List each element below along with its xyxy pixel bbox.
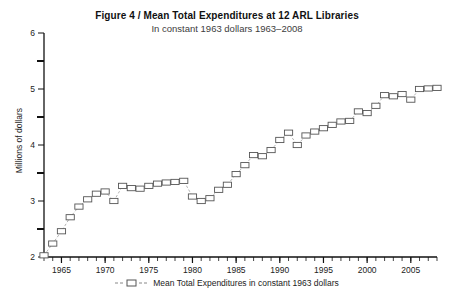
data-point-marker bbox=[354, 109, 362, 114]
axes-layer: 2345619651970197519801985199019952000200… bbox=[30, 28, 437, 275]
chart-plot-area: 2345619651970197519801985199019952000200… bbox=[0, 0, 454, 302]
data-point-marker bbox=[363, 110, 371, 115]
data-point-marker bbox=[206, 196, 214, 201]
data-point-marker bbox=[84, 197, 92, 202]
data-point-marker bbox=[197, 198, 205, 203]
data-point-marker bbox=[153, 181, 161, 186]
data-point-marker bbox=[311, 129, 319, 134]
y-tick-label: 5 bbox=[30, 84, 35, 94]
data-point-marker bbox=[180, 178, 188, 183]
data-point-marker bbox=[302, 133, 310, 138]
data-point-marker bbox=[40, 253, 48, 258]
data-point-marker bbox=[171, 179, 179, 184]
legend-entry: Mean Total Expenditures in constant 1963… bbox=[115, 278, 339, 288]
data-point-marker bbox=[250, 152, 258, 157]
x-tick-label: 1980 bbox=[183, 265, 202, 275]
data-point-marker bbox=[136, 186, 144, 191]
data-point-marker bbox=[223, 182, 231, 187]
data-point-marker bbox=[110, 198, 118, 203]
y-tick-label: 2 bbox=[30, 252, 35, 262]
data-point-marker bbox=[372, 103, 380, 108]
data-point-marker bbox=[127, 186, 135, 191]
chart-legend: Mean Total Expenditures in constant 1963… bbox=[0, 278, 454, 290]
data-point-marker bbox=[232, 172, 240, 177]
data-point-marker bbox=[241, 163, 249, 168]
data-point-marker bbox=[415, 86, 423, 91]
figure-container: Figure 4 / Mean Total Expenditures at 12… bbox=[0, 0, 454, 302]
x-tick-label: 2000 bbox=[358, 265, 377, 275]
data-point-marker bbox=[66, 215, 74, 220]
x-tick-label: 1965 bbox=[52, 265, 71, 275]
data-point-marker bbox=[346, 118, 354, 123]
data-point-marker bbox=[276, 137, 284, 142]
data-point-marker bbox=[284, 130, 292, 135]
x-tick-label: 1970 bbox=[96, 265, 115, 275]
data-point-marker bbox=[319, 126, 327, 131]
data-point-marker bbox=[215, 187, 223, 192]
y-tick-label: 4 bbox=[30, 140, 35, 150]
data-point-marker bbox=[119, 183, 127, 188]
data-point-marker bbox=[49, 241, 57, 246]
data-point-marker bbox=[57, 229, 65, 234]
data-point-marker bbox=[407, 97, 415, 102]
legend-swatch-icon bbox=[115, 278, 149, 288]
x-tick-label: 1985 bbox=[227, 265, 246, 275]
data-point-marker bbox=[328, 122, 336, 127]
data-point-marker bbox=[75, 204, 83, 209]
data-point-marker bbox=[258, 154, 266, 159]
y-tick-label: 3 bbox=[30, 196, 35, 206]
legend-label: Mean Total Expenditures in constant 1963… bbox=[153, 278, 339, 288]
data-point-marker bbox=[398, 91, 406, 96]
data-point-marker bbox=[267, 147, 275, 152]
data-point-marker bbox=[389, 94, 397, 99]
x-tick-label: 2005 bbox=[401, 265, 420, 275]
data-point-marker bbox=[188, 194, 196, 199]
data-point-marker bbox=[433, 85, 441, 90]
data-point-marker bbox=[424, 86, 432, 91]
data-point-marker bbox=[337, 119, 345, 124]
data-point-marker bbox=[293, 142, 301, 147]
data-point-marker bbox=[101, 189, 109, 194]
data-point-marker bbox=[92, 191, 100, 196]
y-tick-label: 6 bbox=[30, 28, 35, 38]
x-tick-label: 1975 bbox=[139, 265, 158, 275]
data-point-marker bbox=[145, 183, 153, 188]
data-series-layer bbox=[40, 85, 441, 258]
data-point-marker bbox=[162, 180, 170, 185]
x-tick-label: 1990 bbox=[270, 265, 289, 275]
data-point-marker bbox=[381, 93, 389, 98]
x-tick-label: 1995 bbox=[314, 265, 333, 275]
